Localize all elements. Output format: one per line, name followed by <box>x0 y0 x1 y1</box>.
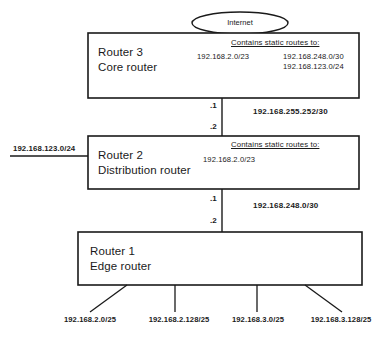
edge-network-line-4 <box>305 285 342 312</box>
link-distribution-edge-lower-interface: .2 <box>210 216 217 225</box>
link-core-distribution-lower-interface: .2 <box>210 122 217 131</box>
edge-network-line-1 <box>90 285 127 312</box>
edge-network-label-4: 192.168.3.128/25 <box>296 316 385 325</box>
router3-static-route-2: 192.168.123.0/24 <box>283 63 344 72</box>
router3-static-route-1: 192.168.248.0/30 <box>283 53 344 62</box>
router2-role: Distribution router <box>98 164 191 177</box>
router3-role: Core router <box>98 61 157 74</box>
link-core-distribution-network: 192.168.255.252/30 <box>253 107 328 116</box>
link-core-distribution-upper-interface: .1 <box>210 101 217 110</box>
link-distribution-edge-network: 192.168.248.0/30 <box>253 201 318 210</box>
edge-network-label-2: 192.168.2.128/25 <box>134 316 224 325</box>
edge-network-label-3: 192.168.3.0/25 <box>215 316 301 325</box>
link-distribution-edge-upper-interface: .1 <box>210 194 217 203</box>
router3-name: Router 3 <box>98 46 143 59</box>
diagram-lines-layer <box>0 0 385 340</box>
internet-cloud-label: Internet <box>192 19 288 28</box>
router2-name: Router 2 <box>98 149 143 162</box>
network-diagram: Internet Router 3 Core router Contains s… <box>0 0 385 340</box>
router1-role: Edge router <box>90 260 151 273</box>
router2-static-heading: Contains static routes to: <box>231 141 319 150</box>
router3-connected-network: 192.168.2.0/23 <box>197 53 249 62</box>
side-network-label: 192.168.123.0/24 <box>13 145 75 154</box>
router3-static-heading: Contains static routes to: <box>231 39 319 48</box>
router2-connected-network: 192.168.2.0/23 <box>203 156 255 165</box>
edge-network-label-1: 192.168.2.0/25 <box>47 316 133 325</box>
router1-name: Router 1 <box>90 245 135 258</box>
router1-box <box>78 232 362 285</box>
